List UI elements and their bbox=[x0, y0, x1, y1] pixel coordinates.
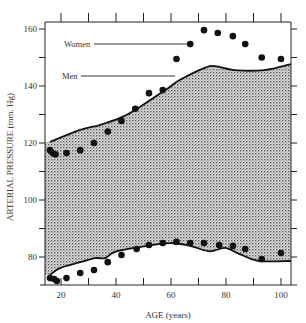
systolic-point bbox=[118, 118, 125, 125]
annotation-women: Women bbox=[64, 39, 91, 49]
diastolic-point bbox=[91, 267, 98, 274]
systolic-point bbox=[278, 56, 285, 63]
systolic-point bbox=[242, 41, 249, 48]
systolic-point bbox=[77, 147, 84, 154]
diastolic-point bbox=[118, 252, 125, 259]
diastolic-point bbox=[173, 239, 180, 246]
chart: 2040608010080100120140160 Women Men AGE … bbox=[0, 0, 306, 323]
y-tick-label: 120 bbox=[24, 138, 38, 148]
systolic-point bbox=[91, 140, 98, 147]
diastolic-point bbox=[258, 256, 265, 263]
systolic-point bbox=[132, 106, 139, 113]
x-tick-label: 100 bbox=[274, 290, 288, 300]
diastolic-point bbox=[242, 246, 249, 253]
x-tick-label: 40 bbox=[112, 290, 122, 300]
x-tick-label: 20 bbox=[57, 290, 67, 300]
diastolic-point bbox=[201, 240, 208, 247]
diastolic-point bbox=[159, 240, 166, 247]
systolic-point bbox=[201, 27, 208, 34]
diastolic-point bbox=[230, 243, 237, 250]
y-axis-title: ARTERIAL PRESSURE (mm. Hg) bbox=[5, 93, 15, 221]
x-axis-title: AGE (years) bbox=[145, 310, 191, 320]
diastolic-point bbox=[278, 250, 285, 257]
systolic-point bbox=[63, 150, 70, 157]
diastolic-point bbox=[146, 242, 153, 249]
diastolic-point bbox=[54, 278, 61, 285]
systolic-point bbox=[214, 30, 221, 37]
systolic-point bbox=[104, 128, 111, 135]
systolic-point bbox=[258, 54, 265, 61]
y-tick-label: 160 bbox=[24, 24, 38, 34]
y-tick-label: 140 bbox=[24, 81, 38, 91]
systolic-point bbox=[52, 151, 59, 158]
diastolic-point bbox=[216, 242, 223, 249]
diastolic-point bbox=[104, 259, 111, 266]
systolic-point bbox=[159, 87, 166, 94]
annotation-men: Men bbox=[62, 71, 78, 81]
x-tick-label: 80 bbox=[222, 290, 232, 300]
systolic-point bbox=[173, 56, 180, 63]
systolic-point bbox=[146, 90, 153, 97]
systolic-point bbox=[230, 33, 237, 40]
diastolic-point bbox=[63, 275, 70, 282]
y-tick-label: 80 bbox=[28, 252, 38, 262]
diastolic-point bbox=[77, 270, 84, 277]
x-tick-label: 60 bbox=[167, 290, 177, 300]
diastolic-point bbox=[187, 240, 194, 247]
y-tick-label: 100 bbox=[24, 195, 38, 205]
diastolic-point bbox=[133, 246, 140, 253]
